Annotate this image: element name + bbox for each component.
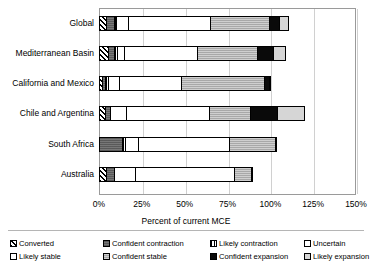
bar-segment-uncertain[interactable] [108,76,119,91]
legend-swatch-confident-contraction [103,240,110,247]
legend-swatch-likely-expansion [304,253,311,260]
bar-segment-converted[interactable] [99,16,106,31]
bar-segment-uncertain[interactable] [114,167,135,182]
x-tick-25: 25% [133,199,150,209]
gridline [357,9,358,194]
legend-label: Converted [19,239,54,248]
legend: ConvertedConfident contractionLikely con… [10,237,366,263]
legend-label: Confident expansion [219,252,288,261]
legend-item-confident-contraction[interactable]: Confident contraction [103,239,210,248]
bar-segment-confident-stable[interactable] [181,76,264,91]
bar-segment-confident-stable[interactable] [229,137,274,152]
category-label-global: Global [69,18,94,28]
legend-item-likely-expansion[interactable]: Likely expansion [304,252,366,261]
bar-segment-confident-contraction[interactable] [99,137,122,152]
bar-segment-confident-expansion[interactable] [257,46,272,61]
bar-segment-likely-stable[interactable] [128,16,210,31]
bar-segment-likely-stable[interactable] [126,106,209,121]
gridline [271,9,272,194]
category-label-mediterranean-basin: Mediterranean Basin [16,48,94,58]
legend-label: Uncertain [313,239,346,248]
x-tick-50: 50% [176,199,193,209]
bar-segment-confident-expansion[interactable] [251,167,254,182]
bar-segment-converted[interactable] [99,167,106,182]
bar-segment-confident-contraction[interactable] [106,167,115,182]
category-label-chile-and-argentina: Chile and Argentina [20,108,94,118]
x-tick-150: 150% [345,199,367,209]
legend-item-likely-stable[interactable]: Likely stable [10,252,103,261]
legend-swatch-confident-expansion [210,253,217,260]
legend-item-confident-stable[interactable]: Confident stable [103,252,210,261]
legend-swatch-converted [10,240,17,247]
bar-segment-confident-expansion[interactable] [269,16,279,31]
bar-south-africa[interactable] [99,137,277,152]
bar-segment-confident-expansion[interactable] [250,106,277,121]
legend-label: Likely stable [19,252,61,261]
legend-label: Likely contraction [219,239,278,248]
bar-segment-uncertain[interactable] [116,16,128,31]
legend-swatch-likely-contraction [210,240,217,247]
legend-item-uncertain[interactable]: Uncertain [304,239,366,248]
bar-segment-confident-stable[interactable] [209,106,250,121]
bar-segment-likely-stable[interactable] [119,76,182,91]
bar-segment-confident-stable[interactable] [210,16,268,31]
legend-swatch-likely-stable [10,253,17,260]
x-tick-75: 75% [219,199,236,209]
category-label-south-africa: South Africa [48,139,94,149]
x-axis-title: Percent of current MCE [0,216,372,226]
bar-australia[interactable] [99,167,253,182]
legend-swatch-confident-stable [103,253,110,260]
category-label-california-and-mexico: California and Mexico [12,78,94,88]
legend-item-confident-expansion[interactable]: Confident expansion [210,252,304,261]
bar-segment-confident-contraction[interactable] [108,46,115,61]
legend-item-converted[interactable]: Converted [10,239,103,248]
bar-segment-confident-expansion[interactable] [275,137,277,152]
bar-segment-likely-expansion[interactable] [269,76,271,91]
bar-segment-confident-stable[interactable] [197,46,257,61]
legend-item-likely-contraction[interactable]: Likely contraction [210,239,304,248]
bar-segment-converted[interactable] [99,46,108,61]
bar-segment-likely-expansion[interactable] [279,16,289,31]
x-tick-0: 0% [93,199,105,209]
x-tick-100: 100% [259,199,281,209]
bar-segment-uncertain[interactable] [125,137,139,152]
bar-segment-uncertain[interactable] [117,46,124,61]
bar-segment-likely-expansion[interactable] [277,106,304,121]
bar-segment-uncertain[interactable] [110,106,125,121]
bar-california-and-mexico[interactable] [99,76,271,91]
bar-segment-likely-stable[interactable] [138,137,229,152]
bar-segment-likely-expansion[interactable] [273,46,286,61]
legend-swatch-uncertain [304,240,311,247]
legend-label: Likely expansion [313,252,369,261]
bar-segment-likely-stable[interactable] [124,46,198,61]
legend-label: Confident stable [112,252,167,261]
legend-divider [8,230,364,231]
category-label-australia: Australia [61,169,94,179]
bar-segment-likely-stable[interactable] [135,167,234,182]
bar-mediterranean-basin[interactable] [99,46,286,61]
bar-global[interactable] [99,16,289,31]
bar-chile-and-argentina[interactable] [99,106,305,121]
chart-container: GlobalMediterranean BasinCalifornia and … [0,0,372,270]
bar-segment-confident-contraction[interactable] [106,16,114,31]
gridline [314,9,315,194]
legend-label: Confident contraction [112,239,184,248]
x-tick-125: 125% [302,199,324,209]
bar-segment-confident-stable[interactable] [234,167,250,182]
